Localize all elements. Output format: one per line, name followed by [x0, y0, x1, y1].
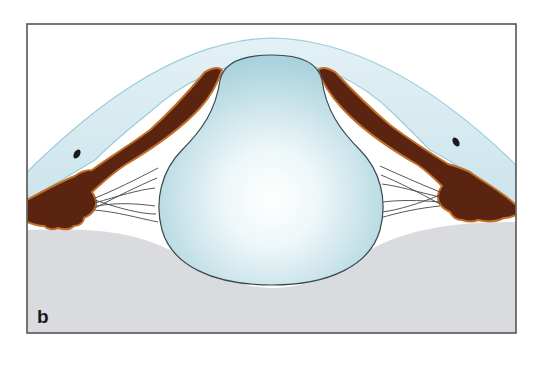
panel-label: b — [37, 306, 49, 328]
eye-diagram — [0, 0, 546, 384]
